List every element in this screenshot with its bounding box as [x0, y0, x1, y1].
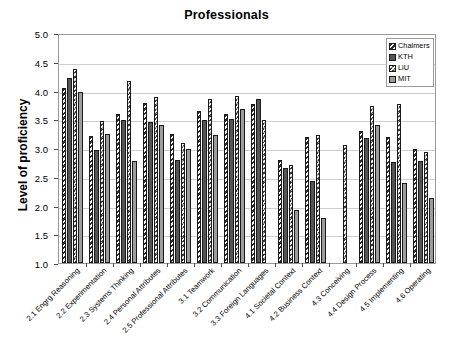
bar [364, 138, 369, 263]
legend-item: LiU [389, 63, 430, 73]
bar [283, 168, 288, 263]
legend-item: MIT [389, 74, 430, 84]
y-tick-mark [54, 92, 58, 93]
y-tick-label: 3.0 [0, 144, 48, 155]
bar [181, 143, 186, 263]
bar [127, 81, 132, 263]
y-tick-mark [54, 235, 58, 236]
legend-swatch-icon [389, 43, 396, 50]
bar-group [140, 35, 167, 263]
legend-label: LiU [398, 64, 409, 72]
y-tick-mark [54, 34, 58, 35]
bar [424, 152, 429, 263]
bar [289, 165, 294, 263]
bar [62, 88, 67, 263]
bar [105, 134, 110, 263]
bar [235, 96, 240, 263]
bar [294, 210, 299, 263]
bar [175, 160, 180, 263]
bar [208, 99, 213, 263]
y-tick-label: 4.0 [0, 86, 48, 97]
legend-swatch-icon [389, 76, 396, 83]
bar [418, 161, 423, 263]
y-tick-label: 2.5 [0, 172, 48, 183]
bar [386, 137, 391, 264]
y-tick-label: 3.5 [0, 115, 48, 126]
bar [240, 109, 245, 263]
bars-layer [59, 35, 435, 263]
bar [229, 119, 234, 263]
bar [224, 114, 229, 264]
bar-group [356, 35, 383, 263]
bar [186, 149, 191, 263]
bar [143, 103, 148, 263]
bar [343, 145, 348, 263]
plot-area [58, 34, 436, 264]
bar [397, 104, 402, 263]
bar [73, 69, 78, 263]
bar [359, 131, 364, 263]
y-tick-label: 1.5 [0, 230, 48, 241]
bar-group [194, 35, 221, 263]
bar [213, 135, 218, 263]
y-tick-label: 4.5 [0, 57, 48, 68]
y-tick-label: 5.0 [0, 29, 48, 40]
bar [94, 150, 99, 263]
bar-group [59, 35, 86, 263]
legend-label: KTH [398, 53, 413, 61]
legend-label: Chalmers [398, 42, 430, 50]
bar [170, 134, 175, 263]
bar [251, 104, 256, 263]
bar [370, 106, 375, 263]
x-tick-label: 3.2 Communication [190, 266, 243, 319]
bar-group [86, 35, 113, 263]
bar [132, 161, 137, 263]
bar-group [167, 35, 194, 263]
bar [121, 120, 126, 263]
bar [413, 149, 418, 263]
bar-chart: Professionals Level of proficiency 5.04.… [0, 0, 453, 359]
bar [305, 137, 310, 264]
bar [159, 125, 164, 263]
x-tick-label: 4.4 Design Process [325, 266, 378, 319]
y-tick-mark [54, 63, 58, 64]
legend-swatch-icon [389, 54, 396, 61]
bar-group [248, 35, 275, 263]
bar [67, 78, 72, 263]
bar [310, 181, 315, 263]
bar [262, 120, 267, 263]
y-tick-mark [54, 264, 58, 265]
legend-item: KTH [389, 52, 430, 62]
bar [429, 198, 434, 263]
y-tick-mark [54, 178, 58, 179]
bar [256, 99, 261, 263]
bar-group [113, 35, 140, 263]
bar [375, 125, 380, 263]
bar [116, 114, 121, 264]
bar [278, 160, 283, 264]
x-axis-labels: 2.1 Engrg Reasoning2.2 Experimentation2.… [0, 266, 453, 359]
bar-group [275, 35, 302, 263]
chart-title: Professionals [0, 8, 453, 22]
bar-group [221, 35, 248, 263]
y-tick-label: 2.0 [0, 201, 48, 212]
chart-legend: ChalmersKTHLiUMIT [386, 38, 434, 87]
bar [148, 122, 153, 263]
bar [100, 121, 105, 263]
bar [316, 135, 321, 263]
bar-group [302, 35, 329, 263]
legend-swatch-icon [389, 65, 396, 72]
bar [197, 111, 202, 263]
y-tick-mark [54, 149, 58, 150]
bar [78, 92, 83, 263]
bar [202, 120, 207, 263]
bar [89, 136, 94, 263]
y-tick-mark [54, 120, 58, 121]
bar [154, 97, 159, 263]
y-tick-mark [54, 207, 58, 208]
bar [321, 218, 326, 263]
bar [402, 183, 407, 263]
bar [391, 162, 396, 263]
legend-label: MIT [398, 75, 411, 83]
legend-item: Chalmers [389, 41, 430, 51]
